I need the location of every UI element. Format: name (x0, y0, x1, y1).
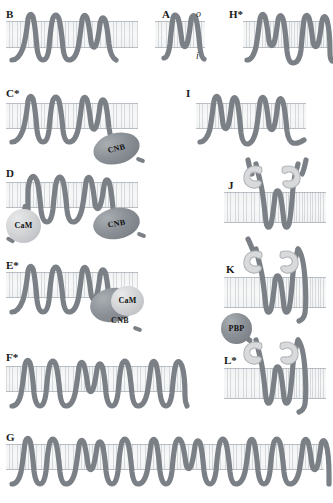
clamp-left-K (240, 247, 270, 277)
panel-label-H: H* (229, 9, 243, 20)
panel-label-K: K (226, 264, 235, 275)
domain-CNB-E-label: CNB (100, 312, 140, 330)
cnb-tail-D (137, 231, 147, 238)
helix-trace-F (4, 350, 188, 412)
asterisk-E: * (13, 259, 19, 271)
panel-label-J: J (228, 180, 234, 191)
asterisk-H: * (238, 8, 244, 20)
asterisk-L: * (231, 354, 237, 366)
helix-trace-H (241, 5, 333, 67)
panel-label-F: F* (6, 352, 18, 363)
panel-label-E: E* (6, 260, 19, 271)
orientation-label-inside: i (196, 50, 199, 61)
panel-label-I: I (186, 88, 190, 99)
orientation-label-outside: o (196, 8, 201, 19)
clamp-left-J (240, 162, 270, 192)
clamp-right-J (274, 162, 304, 192)
asterisk-C: * (14, 87, 20, 99)
panel-label-G: G (6, 432, 15, 443)
clamp-right-L (272, 338, 302, 368)
domain-CaM-D: CaM (6, 209, 41, 243)
cnb-tail-C (136, 156, 146, 163)
helix-trace-G (4, 428, 330, 490)
asterisk-F: * (13, 351, 19, 363)
panel-label-A: A (162, 9, 170, 20)
panel-label-D: D (6, 168, 14, 179)
panel-label-L: L* (224, 355, 237, 366)
helix-trace-B (4, 4, 144, 66)
clamp-right-K (272, 247, 302, 277)
clamp-left-L (240, 338, 270, 368)
helix-trace-I (194, 86, 312, 148)
panel-label-B: B (6, 9, 13, 20)
panel-label-C: C* (6, 88, 19, 99)
